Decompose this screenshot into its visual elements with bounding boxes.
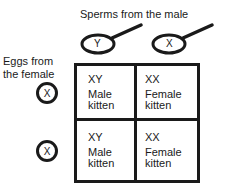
sperm-x-label: X: [166, 38, 173, 49]
sperm-y-label: Y: [94, 38, 101, 49]
grid-divider-horizontal: [74, 118, 200, 121]
sperm-x-icon: [153, 25, 212, 53]
cell-xx-female-2: XX Female kitten: [145, 132, 182, 169]
cell-xy-male-1: XY Male kitten: [88, 74, 114, 111]
cell-xx-female-1: XX Female kitten: [145, 74, 182, 111]
sperm-y-icon: [82, 25, 141, 53]
grid-divider-vertical: [134, 63, 137, 183]
egg-x-icon-1: X: [36, 82, 58, 104]
eggs-label: Eggs from the female: [3, 55, 54, 81]
egg-x-icon-2: X: [36, 140, 58, 162]
cell-xy-male-2: XY Male kitten: [88, 132, 114, 169]
